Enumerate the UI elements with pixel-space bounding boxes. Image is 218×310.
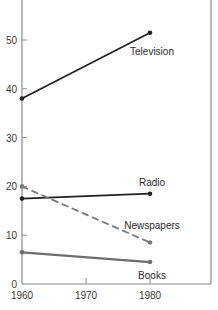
y-tick-label: 20 bbox=[6, 181, 18, 192]
y-tick-label: 0 bbox=[11, 279, 17, 290]
radio-line bbox=[22, 194, 150, 199]
newspapers-point-1960 bbox=[20, 184, 25, 189]
series-labels: TelevisionRadioNewspapersBooks bbox=[124, 46, 180, 281]
y-tick-label: 50 bbox=[6, 35, 18, 46]
radio-point-1960 bbox=[20, 196, 25, 201]
series-radio bbox=[20, 191, 153, 200]
series-label-television: Television bbox=[130, 46, 174, 57]
line-chart: 01020304050196019701980 TelevisionRadioN… bbox=[0, 0, 218, 310]
x-tick-label: 1980 bbox=[139, 290, 162, 301]
y-tick-label: 10 bbox=[6, 230, 18, 241]
axes bbox=[22, 0, 211, 284]
television-point-1980 bbox=[148, 30, 153, 35]
series-label-books: Books bbox=[138, 270, 166, 281]
series-books bbox=[20, 250, 153, 264]
books-line bbox=[22, 252, 150, 262]
y-tick-label: 30 bbox=[6, 133, 18, 144]
series-label-radio: Radio bbox=[139, 177, 166, 188]
television-line bbox=[22, 33, 150, 99]
television-point-1960 bbox=[20, 96, 25, 101]
x-tick-label: 1970 bbox=[75, 290, 98, 301]
radio-point-1980 bbox=[148, 191, 153, 196]
y-tick-label: 40 bbox=[6, 84, 18, 95]
x-tick-label: 1960 bbox=[11, 290, 34, 301]
books-point-1960 bbox=[20, 250, 25, 255]
series-newspapers bbox=[20, 184, 153, 245]
newspapers-point-1980 bbox=[148, 240, 153, 245]
books-point-1980 bbox=[148, 260, 153, 265]
series-label-newspapers: Newspapers bbox=[124, 220, 180, 231]
series-television bbox=[20, 30, 153, 100]
